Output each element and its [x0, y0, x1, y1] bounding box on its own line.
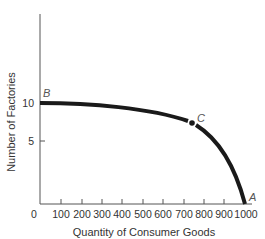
ppf-chart: 5 10 0 100 200 300 400 500 600 700 800 9…: [0, 0, 265, 239]
y-tick-5: 5: [28, 135, 34, 147]
svg-text:300: 300: [93, 208, 111, 220]
ppf-curve: [40, 103, 245, 204]
svg-text:1000: 1000: [234, 208, 258, 220]
x-tick-labels: 0 100 200 300 400 500 600 700 800 900 10…: [31, 208, 258, 220]
point-a-label: A: [248, 191, 256, 203]
svg-text:900: 900: [215, 208, 233, 220]
point-c-label: C: [197, 112, 205, 124]
x-axis-title: Quantity of Consumer Goods: [73, 226, 216, 238]
point-b-label: B: [43, 87, 50, 99]
y-axis-title: Number of Factories: [5, 72, 17, 172]
svg-text:400: 400: [113, 208, 131, 220]
x-ticks: [61, 199, 224, 204]
svg-text:0: 0: [31, 208, 37, 220]
svg-text:100: 100: [52, 208, 70, 220]
svg-text:700: 700: [175, 208, 193, 220]
y-tick-10: 10: [22, 97, 34, 109]
svg-text:500: 500: [134, 208, 152, 220]
point-c-marker: [189, 120, 195, 126]
svg-text:800: 800: [195, 208, 213, 220]
svg-text:200: 200: [73, 208, 91, 220]
svg-text:600: 600: [154, 208, 172, 220]
